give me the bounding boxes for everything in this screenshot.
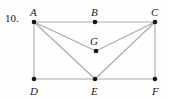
- edge-g-c: [96, 22, 155, 51]
- vertex-point-b: [93, 20, 98, 25]
- vertices-group: [32, 20, 158, 82]
- vertex-label-b: B: [91, 6, 98, 18]
- vertex-point-e: [93, 77, 98, 82]
- vertex-point-f: [153, 77, 158, 82]
- vertex-label-e: E: [90, 85, 98, 97]
- geometry-diagram: ABCGDEF: [0, 0, 169, 101]
- vertex-point-a: [32, 20, 37, 25]
- vertex-point-d: [32, 77, 37, 82]
- vertex-label-a: A: [29, 6, 37, 18]
- geometry-figure-container: 10. ABCGDEF: [0, 0, 169, 101]
- edge-a-g: [34, 22, 96, 51]
- vertex-point-g: [94, 49, 99, 54]
- vertex-label-g: G: [90, 35, 98, 47]
- vertex-label-d: D: [29, 85, 38, 97]
- vertex-point-c: [153, 20, 158, 25]
- edge-a-e: [34, 22, 95, 79]
- vertex-label-f: F: [151, 85, 159, 97]
- vertex-label-c: C: [151, 6, 159, 18]
- edge-c-e: [95, 22, 155, 79]
